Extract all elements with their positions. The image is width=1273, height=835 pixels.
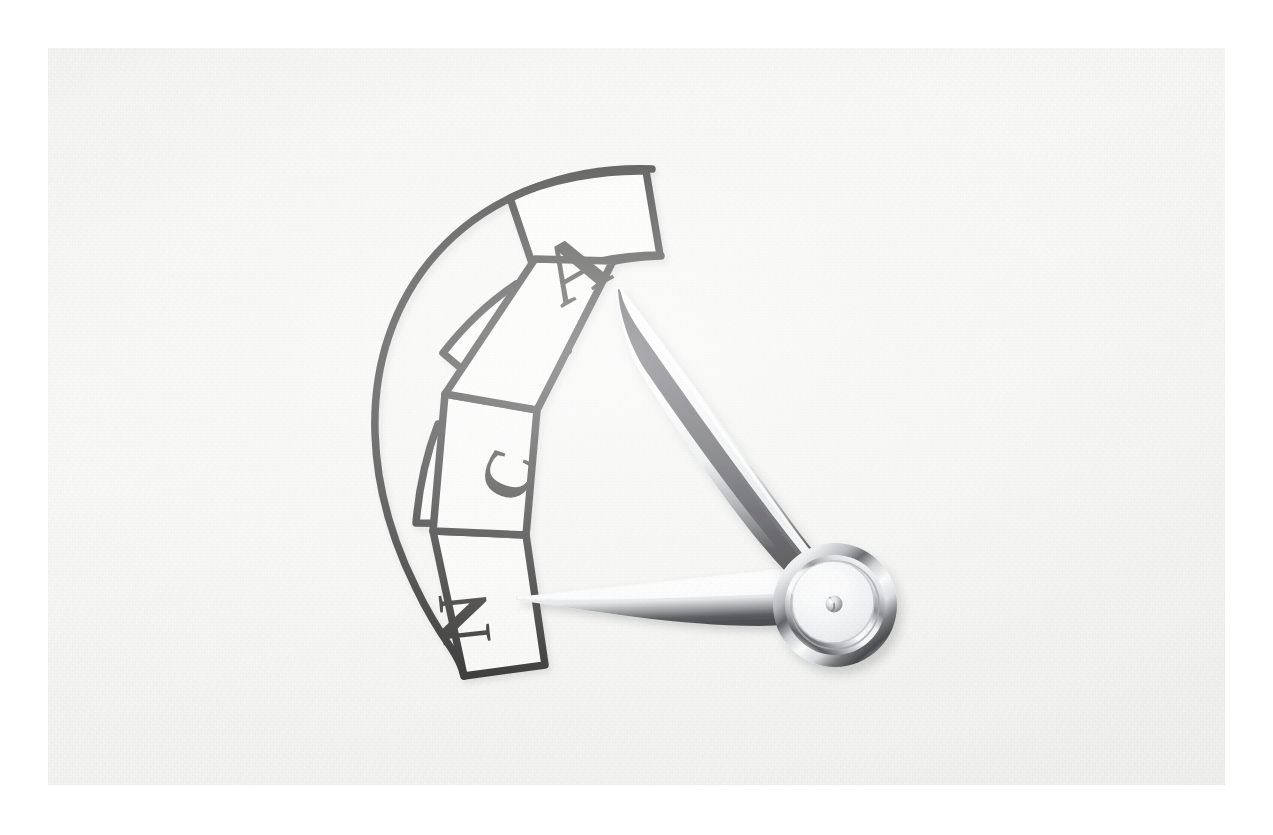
hub-screw-highlight xyxy=(829,598,835,604)
pivot-hub[interactable] xyxy=(773,543,897,667)
segment-n-label: N xyxy=(422,588,507,648)
photo-field: A C N xyxy=(48,48,1225,785)
gauge-artwork: A C N xyxy=(48,48,1225,785)
screenshot-canvas: A C N xyxy=(0,0,1273,835)
